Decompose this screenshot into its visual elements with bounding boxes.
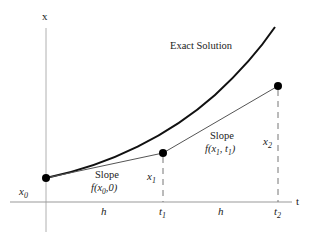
slope-1-title: Slope bbox=[95, 169, 119, 180]
point-x2 bbox=[274, 82, 282, 90]
slope-2-title: Slope bbox=[210, 130, 234, 141]
exact-solution-label: Exact Solution bbox=[170, 40, 233, 51]
tick-label-t2: t2 bbox=[274, 205, 281, 220]
label-x2: x2 bbox=[262, 135, 272, 150]
step-label-h2: h bbox=[218, 205, 224, 217]
step-label-h1: h bbox=[101, 205, 107, 217]
euler-method-diagram: x t Exact Solution x0 x1 x2 Slope f(x0,0… bbox=[0, 0, 315, 241]
point-x1 bbox=[159, 149, 167, 157]
point-x0 bbox=[42, 174, 50, 182]
x-axis-label: x bbox=[42, 10, 48, 22]
slope-1-expr: f(x0,0) bbox=[91, 182, 118, 196]
t-axis-label: t bbox=[296, 195, 299, 207]
label-x0: x0 bbox=[18, 185, 28, 200]
slope-2-expr: f(x1, t1) bbox=[205, 143, 236, 157]
tick-label-t1: t1 bbox=[159, 205, 166, 220]
label-x1: x1 bbox=[146, 170, 156, 185]
